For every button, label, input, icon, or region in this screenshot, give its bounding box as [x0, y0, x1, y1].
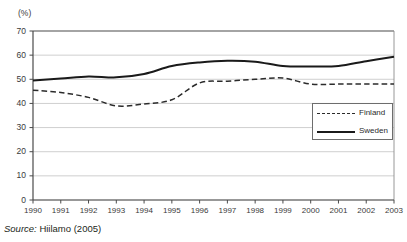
y-tick-label: 70: [8, 26, 26, 36]
legend-label-sweden: Sweden: [359, 126, 388, 135]
y-tick-label: 60: [8, 50, 26, 60]
legend-entry: Sweden: [313, 123, 392, 141]
x-tick-label: 1997: [218, 206, 236, 215]
y-tick-label: 40: [8, 98, 26, 108]
y-tick-label: 50: [8, 74, 26, 84]
x-tick-label: 1996: [191, 206, 209, 215]
x-tick-label: 2001: [330, 206, 348, 215]
x-tick-label: 1999: [274, 206, 292, 215]
x-tick-label: 2002: [357, 206, 375, 215]
y-tick-label: 0: [8, 195, 26, 205]
y-tick-label: 10: [8, 170, 26, 180]
x-tick-label: 2003: [385, 206, 403, 215]
source-prefix: Source:: [4, 223, 37, 234]
y-tick-label: 30: [8, 122, 26, 132]
figure-container: (%) 010203040506070 19901991199219931994…: [0, 0, 407, 242]
y-tick-label: 20: [8, 146, 26, 156]
x-tick-label: 1993: [107, 206, 125, 215]
x-tick-label: 1990: [24, 206, 42, 215]
x-tick-label: 1992: [80, 206, 98, 215]
source-reference: Hiilamo (2005): [39, 223, 101, 234]
source-note: Source: Hiilamo (2005): [4, 223, 101, 234]
legend-entry: Finland: [313, 105, 392, 123]
x-tick-label: 2000: [302, 206, 320, 215]
series-line-finland: [33, 78, 394, 106]
x-tick-label: 1994: [135, 206, 153, 215]
legend-label-finland: Finland: [359, 108, 385, 117]
legend-swatch-finland: [317, 113, 355, 114]
legend-swatch-sweden: [317, 131, 355, 133]
x-tick-label: 1995: [163, 206, 181, 215]
x-tick-label: 1991: [52, 206, 70, 215]
chart-legend: FinlandSweden: [312, 103, 393, 140]
x-tick-label: 1998: [246, 206, 264, 215]
series-line-sweden: [33, 57, 394, 81]
